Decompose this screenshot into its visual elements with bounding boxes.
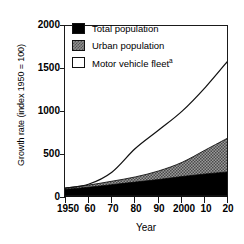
legend-swatch-urban-population bbox=[72, 40, 85, 51]
legend-label-urban-population: Urban population bbox=[92, 40, 164, 51]
legend-item-urban-population: Urban population bbox=[72, 38, 202, 53]
x-tick-label-1950: 1950 bbox=[57, 203, 79, 215]
legend-label-total-population: Total population bbox=[92, 23, 159, 34]
x-tick-label-2000: 2000 bbox=[173, 203, 195, 215]
chart-legend: Total population Urban population Motor … bbox=[72, 21, 202, 72]
legend-label-motor-vehicle-fleet-text: Motor vehicle fleet bbox=[92, 59, 169, 70]
x-tick-label-1980: 80 bbox=[130, 203, 141, 215]
y-tick-label-0: 0 bbox=[26, 192, 60, 202]
y-tick-label-1000: 1000 bbox=[26, 106, 60, 116]
y-tick-label-1500: 1500 bbox=[26, 63, 60, 73]
x-tick-label-1960: 60 bbox=[84, 203, 95, 215]
x-tick-label-2020: 20 bbox=[222, 203, 233, 215]
x-axis-title: Year bbox=[64, 222, 228, 233]
legend-item-motor-vehicle-fleet: Motor vehicle fleeta bbox=[72, 55, 202, 70]
x-tick-label-1970: 70 bbox=[107, 203, 118, 215]
y-tick-label-2000: 2000 bbox=[26, 20, 60, 30]
legend-swatch-motor-vehicle-fleet bbox=[72, 57, 85, 68]
legend-label-motor-vehicle-fleet: Motor vehicle fleeta bbox=[92, 55, 173, 69]
x-tick-label-1990: 90 bbox=[153, 203, 164, 215]
chart-figure: Growth rate (index 1950 = 100) 2000 1500… bbox=[0, 0, 244, 244]
legend-swatch-total-population bbox=[72, 23, 85, 34]
legend-item-total-population: Total population bbox=[72, 21, 202, 36]
y-tick-label-500: 500 bbox=[26, 149, 60, 159]
x-tick-label-2010: 10 bbox=[200, 203, 211, 215]
legend-footnote-marker: a bbox=[169, 57, 173, 64]
y-axis-tick-labels: 2000 1500 1000 500 0 bbox=[24, 0, 60, 244]
